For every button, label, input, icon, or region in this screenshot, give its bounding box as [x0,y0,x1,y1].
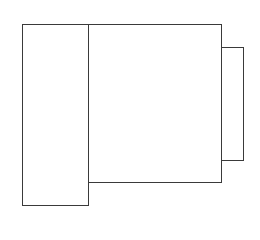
left-block [22,24,89,206]
center-block [88,24,222,183]
right-tab [221,47,244,161]
